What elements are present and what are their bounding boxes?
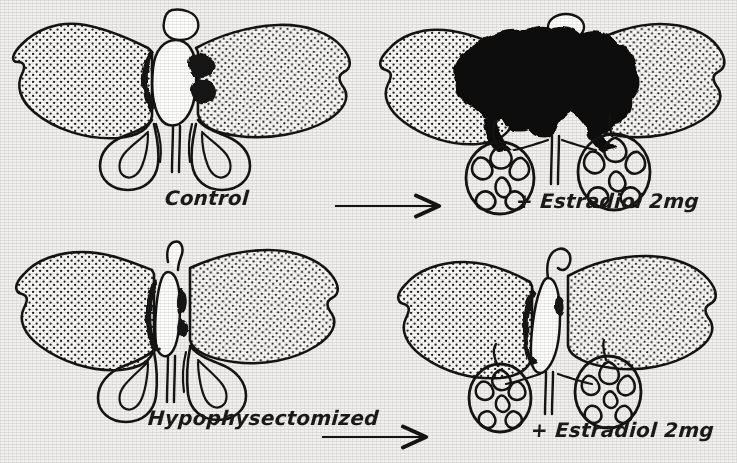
panel-label-estradiol-bottom: + Estradiol 2mg <box>530 418 715 442</box>
pituitary-top-left <box>152 40 196 126</box>
duct-bottom-right <box>545 372 546 414</box>
panel-label-estradiol-top: + Estradiol 2mg <box>515 189 700 213</box>
duct2-top-right <box>558 136 559 184</box>
right-lobe-top-left <box>196 25 350 137</box>
duct2-bottom-right <box>552 372 553 414</box>
duct2-bottom-left <box>174 356 175 402</box>
right-lobe-bottom-left <box>190 250 338 363</box>
panel-label-control: Control <box>164 186 250 210</box>
panel-label-hypophysectomized: Hypophysectomized <box>147 406 379 430</box>
gland-cap-top-left <box>164 10 199 41</box>
duct2-top-left <box>179 126 180 172</box>
specimen-figure <box>0 0 737 463</box>
duct-top-right <box>551 136 552 184</box>
pituitary-remnant-bottom-left <box>155 272 180 356</box>
duct-top-left <box>172 126 173 172</box>
duct-bottom-left <box>167 356 168 402</box>
right-lobe-bottom-right <box>568 256 716 369</box>
